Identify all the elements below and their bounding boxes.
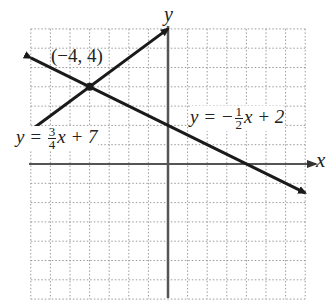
line2-prefix: y = −	[190, 106, 234, 127]
y-axis-label: y	[164, 4, 173, 24]
x-axis-label: x	[316, 150, 325, 171]
line1-prefix: y =	[16, 126, 47, 147]
coordinate-plane	[0, 0, 330, 305]
line2-denominator: 2	[235, 119, 244, 131]
line1-denominator: 4	[48, 139, 57, 151]
line2-fraction: 12	[235, 106, 244, 131]
line1-suffix: x + 7	[57, 126, 97, 147]
line2-equation-label: y = −12x + 2	[190, 106, 284, 131]
line1-equation-label: y = 34x + 7	[16, 126, 98, 151]
intersection-label: (−4, 4)	[51, 46, 103, 65]
line2-suffix: x + 2	[244, 106, 284, 127]
intersection-point	[86, 83, 94, 91]
line1-fraction: 34	[48, 126, 57, 151]
